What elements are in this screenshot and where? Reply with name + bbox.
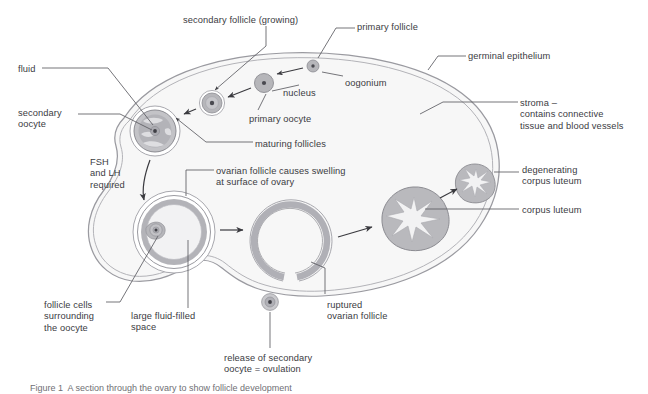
label-germinal-epithelium: germinal epithelium <box>468 51 550 62</box>
ovary-diagram-svg <box>0 0 648 394</box>
label-follicle-cells-surrounding: follicle cells surrounding the oocyte <box>44 300 94 334</box>
label-large-fluid-filled-space: large fluid-filled space <box>131 311 195 334</box>
label-degenerating-corpus-luteum: degenerating corpus luteum <box>522 165 582 188</box>
label-nucleus: nucleus <box>283 88 316 99</box>
leader-germinal-epithelium <box>428 56 466 70</box>
label-release-of-secondary-oocyte: release of secondary oocyte = ovulation <box>224 353 312 376</box>
secondary-follicle-cell <box>199 90 224 115</box>
label-primary-follicle: primary follicle <box>357 22 418 33</box>
corpus-luteum-body <box>382 187 449 251</box>
label-ruptured-ovarian-follicle: ruptured ovarian follicle <box>327 300 387 323</box>
label-ovarian-follicle-swelling: ovarian follicle causes swelling at surf… <box>216 166 346 189</box>
label-primary-oocyte: primary oocyte <box>249 114 311 125</box>
degenerating-corpus-luteum-body <box>455 164 495 203</box>
primary-follicle-cell <box>255 74 274 93</box>
maturing-follicle-cell <box>130 106 180 156</box>
graafian-follicle <box>133 191 215 273</box>
figure-caption: Figure 1 A section through the ovary to … <box>30 383 620 394</box>
label-maturing-follicles: maturing follicles <box>255 139 326 150</box>
label-secondary-oocyte: secondary oocyte <box>18 108 62 131</box>
label-fsh-and-lh-required: FSH and LH required <box>90 157 125 191</box>
label-secondary-follicle-growing: secondary follicle (growing) <box>183 15 298 26</box>
label-oogonium: oogonium <box>345 78 387 89</box>
label-fluid: fluid <box>18 64 36 75</box>
label-corpus-luteum: corpus luteum <box>522 205 582 216</box>
oogonium-cell <box>307 60 319 72</box>
oocyte-in-graafian-follicle <box>146 222 165 239</box>
label-stroma: stroma – contains connective tissue and … <box>520 98 624 132</box>
ovary-diagram-figure: secondary follicle (growing) primary fol… <box>0 0 648 394</box>
released-oocyte <box>262 294 279 311</box>
